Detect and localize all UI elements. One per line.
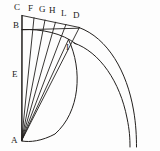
vertex-label-G: G — [39, 5, 46, 14]
vertex-label-L: L — [61, 9, 67, 18]
vertex-label-D: D — [73, 11, 80, 20]
geometry-figure: C F G H L D B I E A — [0, 0, 160, 151]
vertex-label-F: F — [28, 4, 33, 13]
line-B-to-D-lower-chord — [22, 28, 79, 30]
ray-A-to-I — [22, 40, 69, 141]
vertex-label-A: A — [11, 136, 18, 145]
vertex-label-H: H — [49, 6, 56, 15]
line-C-D-top-chord — [22, 16, 80, 28]
ray-A-to-L — [22, 24, 66, 140]
figure-canvas — [0, 0, 160, 151]
vertex-label-B: B — [13, 21, 19, 30]
arc-outer-outer-of-pair — [79, 28, 137, 148]
vertex-label-E: E — [12, 70, 18, 79]
arc-outer-inner-of-pair — [74, 43, 130, 147]
ray-A-to-G — [22, 20, 45, 141]
vertex-label-C: C — [14, 3, 20, 12]
vertex-label-I: I — [66, 43, 69, 52]
ray-A-to-F — [22, 18, 34, 141]
ray-A-to-H — [22, 22, 56, 140]
